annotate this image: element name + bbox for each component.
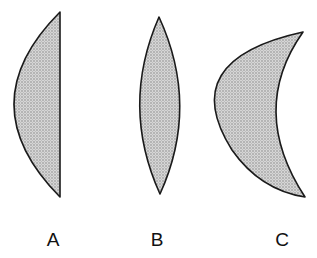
lens-diagram: A B C (0, 0, 317, 258)
lens-c-label: C (275, 229, 289, 251)
lens-c-shape (214, 32, 305, 197)
lens-b-label: B (151, 229, 164, 251)
lens-a-label: A (47, 229, 60, 251)
lens-a-shape (14, 12, 60, 197)
lens-shapes (0, 0, 317, 258)
lens-b-shape (140, 17, 180, 194)
